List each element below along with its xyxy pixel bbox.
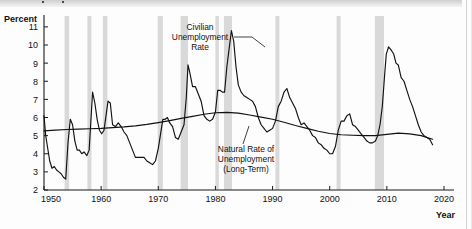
x-axis-tick-label: 1950 — [41, 194, 61, 204]
annot-natural-leader-line — [243, 126, 249, 144]
annot-natural-line1: Natural Rate of — [218, 144, 275, 154]
y-axis-tick-label: 10 — [28, 40, 38, 50]
y-axis-tick-label: 8 — [33, 77, 38, 87]
annot-natural-line2: Unemployment — [218, 154, 275, 164]
recession-band — [337, 16, 341, 190]
y-axis-tick-label: 9 — [33, 59, 38, 69]
y-axis-tick-label: 7 — [33, 95, 38, 105]
recession-band — [181, 16, 188, 190]
x-axis-tick-label: 1990 — [263, 194, 283, 204]
y-axis-tick-label: 2 — [33, 185, 38, 195]
x-axis-tick-label: 1980 — [205, 194, 225, 204]
x-axis-tick-label: 2010 — [377, 194, 397, 204]
x-axis-tick-label: 2000 — [320, 194, 340, 204]
annot-civilian-line3: Rate — [191, 42, 209, 52]
recession-band — [158, 16, 163, 190]
line-natural-rate-of-unemployment — [44, 112, 433, 139]
x-axis-tick-label: 1970 — [148, 194, 168, 204]
recession-band — [275, 16, 279, 190]
x-axis-title: Year — [436, 210, 456, 220]
recession-band — [103, 16, 108, 190]
x-axis-tick-label: 1960 — [91, 194, 111, 204]
y-axis-title: Percent — [4, 14, 37, 24]
annot-civilian-line1: Civilian — [187, 22, 214, 32]
annot-civilian-leader-line — [234, 37, 265, 47]
y-axis-tick-label: 6 — [33, 113, 38, 123]
y-axis-tick-label: 5 — [33, 131, 38, 141]
annot-natural-line3: (Long-Term) — [223, 164, 269, 174]
annot-civilian-line2: Unemployment — [172, 32, 229, 42]
unemployment-rate-chart: 2345678910111950196019701980199020002010… — [0, 0, 472, 229]
y-axis-tick-label: 4 — [33, 149, 38, 159]
y-axis-tick-label: 3 — [33, 167, 38, 177]
x-axis-tick-label: 2020 — [434, 194, 454, 204]
recession-band — [87, 16, 91, 190]
figure-page: 2345678910111950196019701980199020002010… — [0, 0, 472, 229]
